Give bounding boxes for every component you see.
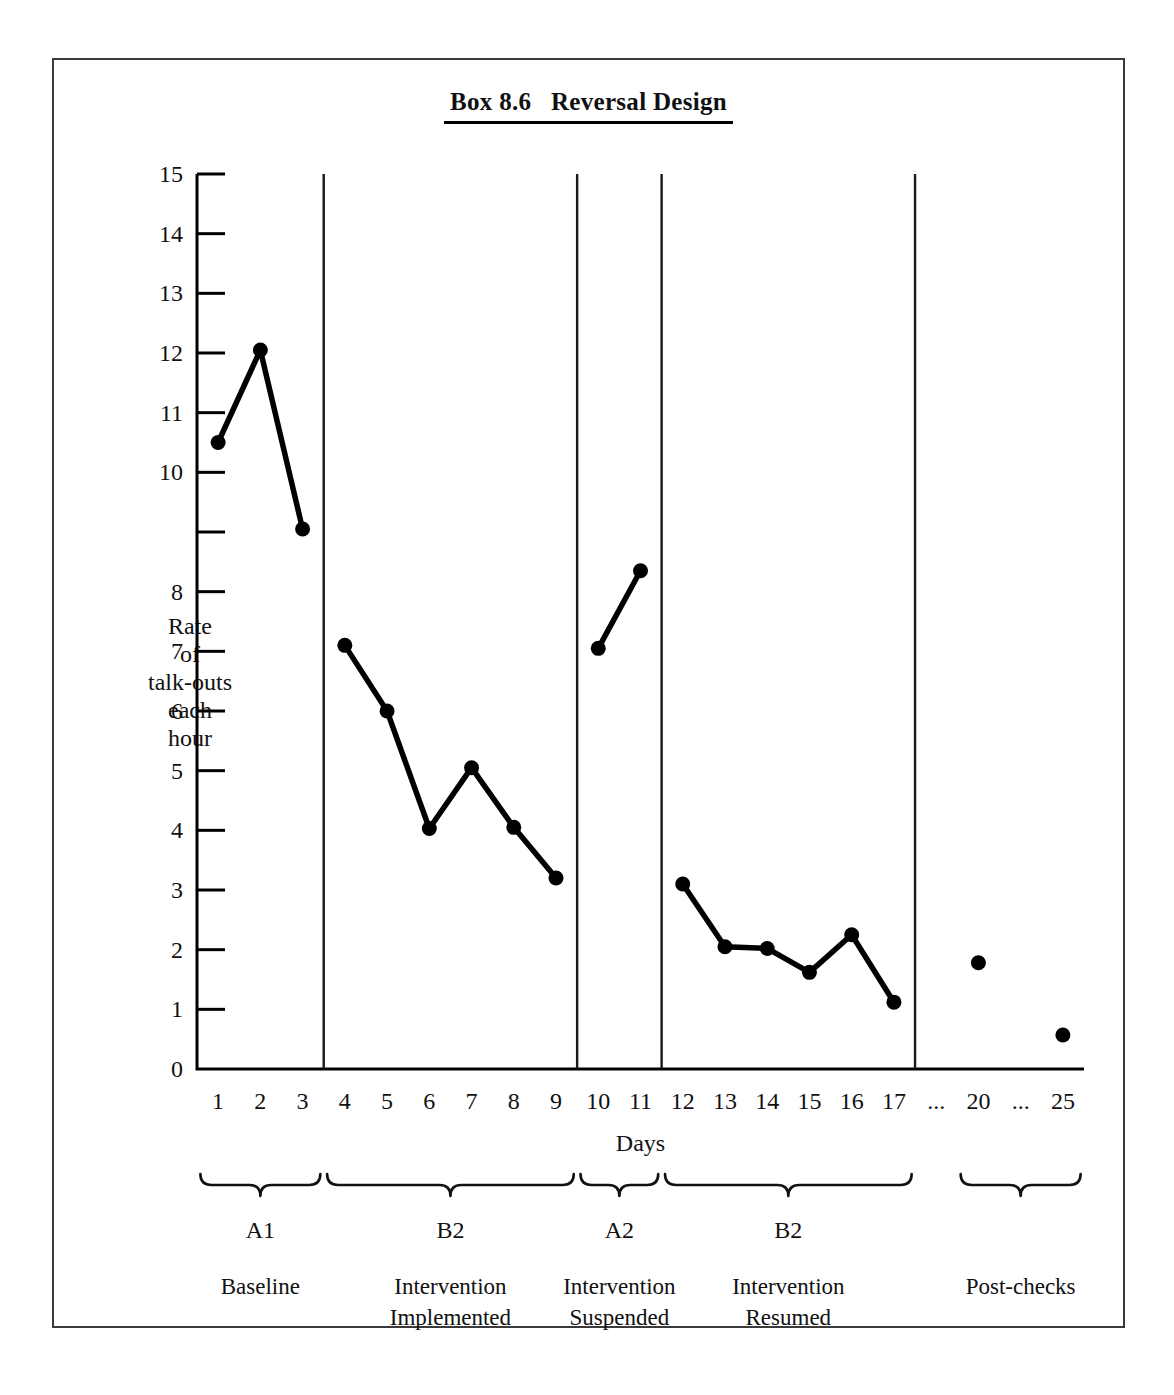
data-series-group xyxy=(211,343,1071,1043)
data-point xyxy=(1055,1027,1070,1042)
x-tick-label: 13 xyxy=(713,1088,737,1114)
data-point xyxy=(760,941,775,956)
x-tick-label: 2 xyxy=(254,1088,266,1114)
data-point xyxy=(506,820,521,835)
y-tick-label: 11 xyxy=(160,400,183,426)
data-point xyxy=(337,638,352,653)
data-point xyxy=(886,995,901,1010)
x-tick-label: 3 xyxy=(297,1088,309,1114)
y-tick-label: 15 xyxy=(159,161,183,187)
x-tick-label: 16 xyxy=(840,1088,864,1114)
phase-braces-group xyxy=(200,1174,1080,1196)
x-tick-label: 14 xyxy=(755,1088,779,1114)
y-tick-label: 12 xyxy=(159,340,183,366)
phase-brace xyxy=(581,1174,659,1196)
x-tick-label: 17 xyxy=(882,1088,906,1114)
data-point xyxy=(675,877,690,892)
x-tick-label: 8 xyxy=(508,1088,520,1114)
phase-description-line: Post-checks xyxy=(966,1274,1076,1299)
x-tick-label: 7 xyxy=(466,1088,478,1114)
phase-description-line: Intervention xyxy=(732,1274,845,1299)
x-tick-label: 4 xyxy=(339,1088,351,1114)
phase-description-line: Intervention xyxy=(394,1274,507,1299)
data-point xyxy=(253,343,268,358)
y-tick-labels-group: 012345678101112131415 xyxy=(159,161,225,1082)
y-tick-label: 6 xyxy=(171,698,183,724)
y-tick-label: 14 xyxy=(159,221,183,247)
phase-description-line: Suspended xyxy=(570,1305,670,1330)
data-point xyxy=(633,563,648,578)
axes-group xyxy=(197,174,1084,1069)
series-line xyxy=(345,645,556,878)
figure-frame: Box 8.6 Reversal Design Rate of talk-out… xyxy=(52,58,1125,1328)
series-line xyxy=(683,884,894,1002)
x-tick-label: 12 xyxy=(671,1088,695,1114)
x-axis-title-group: Days xyxy=(616,1130,665,1156)
phase-dividers-group xyxy=(324,174,915,1069)
x-tick-label: 1 xyxy=(212,1088,224,1114)
phase-description-line: Baseline xyxy=(221,1274,300,1299)
phase-brace xyxy=(200,1174,320,1196)
data-point xyxy=(549,871,564,886)
y-tick-label: 1 xyxy=(171,996,183,1022)
data-point xyxy=(295,522,310,537)
x-tick-label: ... xyxy=(927,1088,945,1114)
data-point xyxy=(717,939,732,954)
data-point xyxy=(380,704,395,719)
y-tick-label: 5 xyxy=(171,758,183,784)
y-tick-label: 10 xyxy=(159,459,183,485)
reversal-design-chart: 1234567891011121314151617...20...25 0123… xyxy=(54,60,1127,1330)
phase-code-label: A1 xyxy=(246,1217,275,1243)
x-tick-label: 15 xyxy=(797,1088,821,1114)
data-point xyxy=(422,821,437,836)
phase-brace xyxy=(961,1174,1081,1196)
data-point xyxy=(211,435,226,450)
x-tick-label: 6 xyxy=(423,1088,435,1114)
y-tick-label: 7 xyxy=(171,638,183,664)
y-tick-label: 3 xyxy=(171,877,183,903)
x-tick-label: 9 xyxy=(550,1088,562,1114)
x-tick-label: 5 xyxy=(381,1088,393,1114)
x-tick-labels-group: 1234567891011121314151617...20...25 xyxy=(212,1088,1075,1114)
x-tick-label: ... xyxy=(1012,1088,1030,1114)
data-point xyxy=(971,955,986,970)
x-tick-label: 20 xyxy=(966,1088,990,1114)
y-tick-label: 8 xyxy=(171,579,183,605)
phase-code-label: A2 xyxy=(605,1217,634,1243)
y-tick-label: 13 xyxy=(159,280,183,306)
y-tick-label: 2 xyxy=(171,937,183,963)
phase-description-line: Implemented xyxy=(390,1305,512,1330)
y-tick-label: 0 xyxy=(171,1056,183,1082)
phase-labels-group: A1BaselineB2InterventionImplementedA2Int… xyxy=(221,1217,1076,1330)
x-axis-title: Days xyxy=(616,1130,665,1156)
series-line xyxy=(218,350,302,529)
phase-code-label: B2 xyxy=(436,1217,464,1243)
data-point xyxy=(464,760,479,775)
axis-lines xyxy=(197,174,1084,1069)
phase-brace xyxy=(665,1174,912,1196)
x-tick-label: 10 xyxy=(586,1088,610,1114)
data-point xyxy=(802,965,817,980)
phase-description-line: Intervention xyxy=(563,1274,676,1299)
series-line xyxy=(598,571,640,649)
x-tick-label: 11 xyxy=(629,1088,652,1114)
phase-brace xyxy=(327,1174,574,1196)
data-point xyxy=(844,927,859,942)
phase-code-label: B2 xyxy=(774,1217,802,1243)
y-tick-label: 4 xyxy=(171,817,183,843)
phase-description-line: Resumed xyxy=(746,1305,832,1330)
x-tick-label: 25 xyxy=(1051,1088,1075,1114)
data-point xyxy=(591,641,606,656)
